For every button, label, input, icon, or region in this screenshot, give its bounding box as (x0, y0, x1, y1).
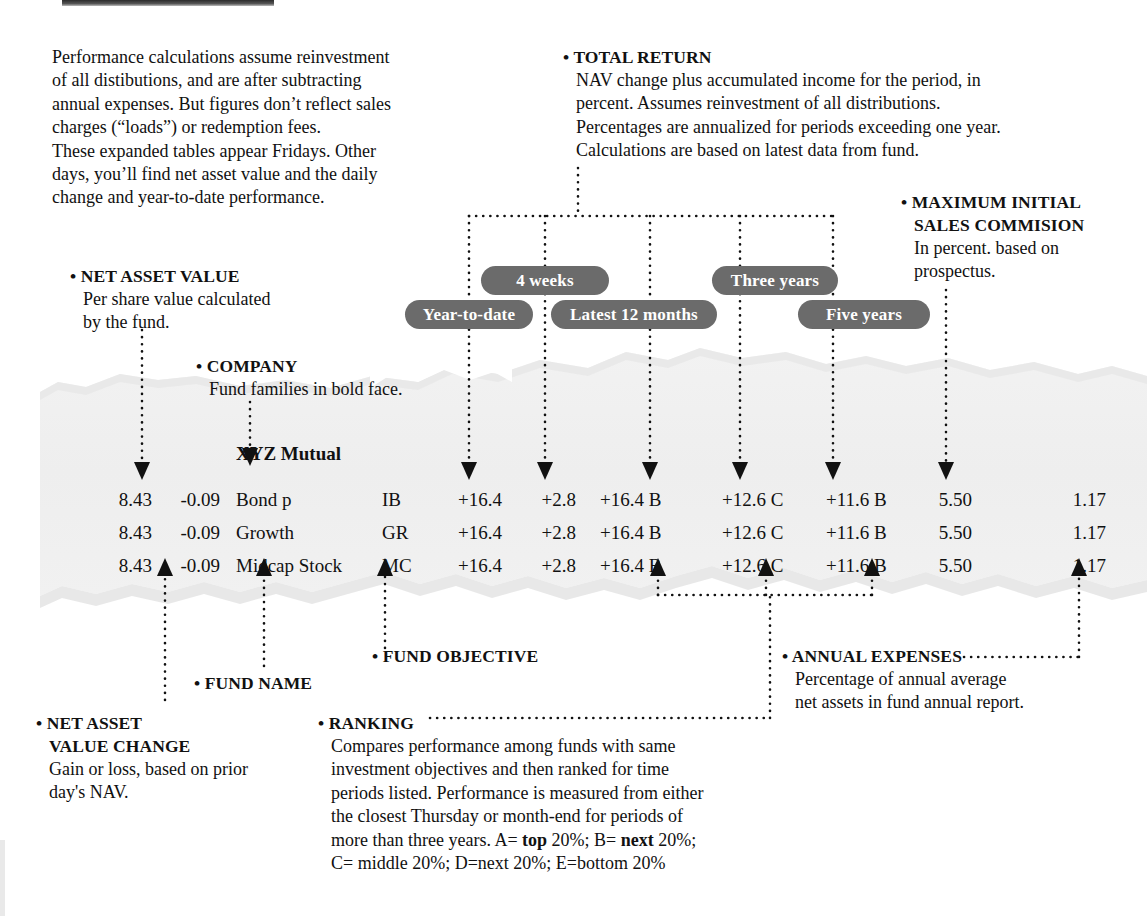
intro-line-1: Performance calculations assume reinvest… (52, 46, 552, 69)
total-return-line-2: percent. Assumes reinvestment of all dis… (576, 92, 1123, 115)
total-return-line-4: Calculations are based on latest data fr… (576, 139, 1123, 162)
pill-five-years-label: Five years (826, 305, 902, 325)
bullet-icon: • (318, 713, 324, 733)
intro-line-6: days, you’ll find net asset value and th… (52, 163, 552, 186)
ranking-line-5: more than three years. A= top 20%; B= ne… (331, 829, 788, 852)
cell-sales-commission: 5.50 (918, 550, 972, 581)
bullet-icon: • (782, 646, 788, 666)
cell-nav: 8.43 (108, 550, 152, 581)
bullet-icon: • (70, 266, 76, 286)
nav-heading: NET ASSET VALUE (81, 266, 240, 286)
callout-total-return: • TOTAL RETURN NAV change plus accumulat… (563, 46, 1123, 163)
fund-objective-heading: FUND OBJECTIVE (383, 646, 539, 666)
pill-year-to-date[interactable]: Year-to-date (405, 300, 533, 329)
company-heading-row: • COMPANY (196, 355, 536, 378)
intro-line-5: These expanded tables appear Fridays. Ot… (52, 140, 552, 163)
arrow-down-nav (134, 462, 150, 480)
cell-nav: 8.43 (108, 484, 152, 515)
cell-objective: MC (382, 550, 412, 581)
ranking-line-5-pre: more than three years. A= (331, 830, 522, 850)
total-return-heading-row: • TOTAL RETURN (563, 46, 1123, 69)
nav-change-heading-line-1: NET ASSET (47, 713, 142, 733)
pill-three-years[interactable]: Three years (712, 266, 838, 295)
table-row[interactable]: 8.43 -0.09 Bond p IB +16.4 +2.8 +16.4 B … (0, 484, 1147, 515)
nav-body: Per share value calculated by the fund. (70, 288, 400, 335)
nav-heading-row: • NET ASSET VALUE (70, 265, 400, 288)
bullet-icon: • (563, 47, 569, 67)
cell-three-years: +12.6 C (722, 550, 783, 581)
cell-objective: IB (382, 484, 401, 515)
cell-four-weeks: +2.8 (518, 484, 576, 515)
intro-line-4: charges (“loads”) or redemption fees. (52, 116, 552, 139)
ranking-body: Compares performance among funds with sa… (318, 735, 788, 875)
ranking-line-4: the closest Thursday or month-end for pe… (331, 805, 788, 828)
nav-change-heading-line-2: VALUE CHANGE (36, 735, 336, 758)
table-row[interactable]: 8.43 -0.09 Growth GR +16.4 +2.8 +16.4 B … (0, 517, 1147, 548)
annual-expenses-body: Percentage of annual average net assets … (782, 668, 1132, 715)
cell-five-years: +11.6 B (826, 517, 887, 548)
callout-intro: Performance calculations assume reinvest… (52, 46, 552, 210)
pill-four-weeks-label: 4 weeks (516, 271, 574, 291)
ranking-heading-row: • RANKING (318, 712, 788, 735)
cell-sales-commission: 5.50 (918, 517, 972, 548)
cell-fund-name: Growth (236, 517, 294, 548)
arrow-down-5years (825, 462, 841, 480)
cell-objective: GR (382, 517, 408, 548)
annual-expenses-line-1: Percentage of annual average (795, 668, 1132, 691)
annual-expenses-heading: ANNUAL EXPENSES (792, 646, 962, 666)
table-row[interactable]: 8.43 -0.09 Midcap Stock MC +16.4 +2.8 +1… (0, 550, 1147, 581)
nav-change-line-2: day's NAV. (49, 781, 336, 804)
cell-nav: 8.43 (108, 517, 152, 548)
cell-latest-12-months: +16.4 B (600, 484, 661, 515)
arrow-down-3years (732, 462, 748, 480)
ranking-line-3: periods listed. Performance is measured … (331, 782, 788, 805)
total-return-body: NAV change plus accumulated income for t… (563, 69, 1123, 163)
ranking-line-6: C= middle 20%; D=next 20%; E=bottom 20% (331, 852, 788, 875)
total-return-heading: TOTAL RETURN (573, 47, 711, 67)
commission-body: In percent. based on prospectus. (901, 237, 1141, 284)
cell-nav-change: -0.09 (166, 550, 220, 581)
pill-latest-12-months[interactable]: Latest 12 months (551, 300, 717, 329)
arrow-down-4weeks (537, 462, 553, 480)
ranking-line-1: Compares performance among funds with sa… (331, 735, 788, 758)
cell-sales-commission: 5.50 (918, 484, 972, 515)
total-return-line-1: NAV change plus accumulated income for t… (576, 69, 1123, 92)
arrow-down-ytd (461, 462, 477, 480)
nav-change-line-1: Gain or loss, based on prior (49, 758, 336, 781)
commission-line-1: In percent. based on (914, 237, 1141, 260)
total-return-line-3: Percentages are annualized for periods e… (576, 116, 1123, 139)
cell-latest-12-months: +16.4 B (600, 517, 661, 548)
pill-five-years[interactable]: Five years (798, 300, 930, 329)
callout-fund-name: • FUND NAME (194, 672, 312, 695)
commission-heading-line-2: SALES COMMISION (901, 214, 1141, 237)
intro-line-2: of all distibutions, and are after subtr… (52, 69, 552, 92)
callout-annual-expenses: • ANNUAL EXPENSES Percentage of annual a… (782, 645, 1132, 715)
nav-line-1: Per share value calculated (83, 288, 400, 311)
nav-line-2: by the fund. (83, 311, 400, 334)
commission-heading-line-1: MAXIMUM INITIAL (912, 192, 1081, 212)
ranking-line-5-mid: 20%; B= (547, 830, 621, 850)
company-line-1: Fund families in bold face. (196, 378, 536, 401)
cell-ytd: +16.4 (436, 484, 502, 515)
nav-change-body: Gain or loss, based on prior day's NAV. (36, 758, 336, 805)
arrow-down-latest12 (642, 462, 658, 480)
cell-five-years: +11.6 B (826, 550, 887, 581)
fund-name-heading: FUND NAME (205, 673, 312, 693)
ranking-grade-a-word: top (522, 830, 547, 850)
callout-fund-objective: • FUND OBJECTIVE (372, 645, 538, 668)
pill-year-to-date-label: Year-to-date (423, 305, 515, 325)
nav-change-heading-row-1: • NET ASSET (36, 712, 336, 735)
annual-expenses-heading-row: • ANNUAL EXPENSES (782, 645, 1132, 668)
bullet-icon: • (36, 713, 42, 733)
intro-line-7: change and year-to-date performance. (52, 186, 552, 209)
table-company-name: XYZ Mutual (236, 443, 341, 465)
cell-fund-name: Midcap Stock (236, 550, 342, 581)
arrow-down-commission (938, 462, 954, 480)
bullet-icon: • (196, 356, 202, 376)
commission-heading-row-1: • MAXIMUM INITIAL (901, 191, 1141, 214)
pill-four-weeks[interactable]: 4 weeks (481, 266, 609, 295)
cell-annual-expenses: 1.17 (1052, 550, 1106, 581)
cell-four-weeks: +2.8 (518, 550, 576, 581)
annual-expenses-line-2: net assets in fund annual report. (795, 691, 1132, 714)
callout-company: • COMPANY Fund families in bold face. (196, 355, 536, 401)
